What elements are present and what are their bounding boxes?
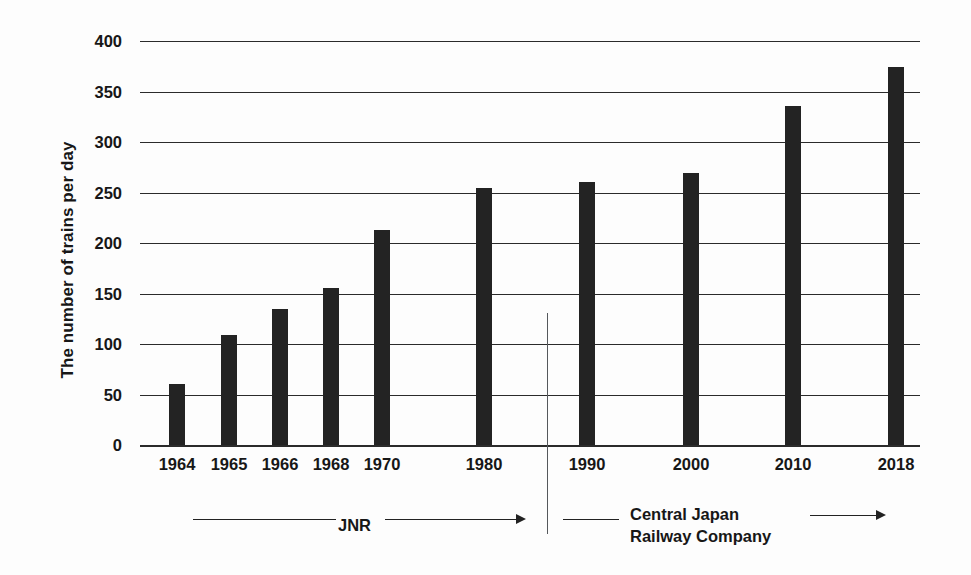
gridline [140,41,920,42]
x-tick-label: 1980 [454,455,514,474]
y-axis-tick-labels: 400350300250200150100500 [48,41,122,445]
plot-area [140,41,920,445]
gridline [140,193,920,194]
y-tick-label: 150 [48,284,122,303]
x-tick-label: 1964 [147,455,207,474]
bar [683,173,699,445]
cjr-arrow-head [876,510,886,520]
bar [221,335,237,445]
gridline [140,344,920,345]
jnr-leader-line-left [193,519,336,520]
bar [579,182,595,445]
x-tick-label: 2018 [866,455,926,474]
cjr-label: Central Japan Railway Company [630,503,771,548]
bar [169,384,185,445]
bar [272,309,288,445]
jnr-label: JNR [338,514,371,536]
bar [888,67,904,445]
y-tick-label: 400 [48,32,122,51]
y-tick-label: 100 [48,335,122,354]
cjr-leader-line-left [563,519,619,520]
cjr-arrow-line [810,515,876,516]
gridline [140,92,920,93]
x-tick-label: 2000 [661,455,721,474]
y-tick-label: 200 [48,234,122,253]
x-axis-tick-labels: 1964196519661968197019801990200020102018 [0,455,971,483]
y-tick-label: 300 [48,133,122,152]
chart-figure: The number of trains per day 40035030025… [0,0,971,575]
jnr-arrow-line [385,519,516,520]
era-annotations: JNR Central Japan Railway Company [0,495,971,565]
cjr-label-line1: Central Japan [630,503,771,525]
x-tick-label: 2010 [763,455,823,474]
bar [374,230,390,445]
bar [785,106,801,445]
jnr-arrow-head [516,514,526,524]
y-tick-label: 50 [48,385,122,404]
bar [323,288,339,445]
gridline [140,294,920,295]
y-tick-label: 250 [48,183,122,202]
gridline [140,395,920,396]
y-tick-label: 350 [48,82,122,101]
x-tick-label: 1970 [352,455,412,474]
cjr-label-line2: Railway Company [630,525,771,547]
y-tick-label: 0 [48,436,122,455]
bar [476,188,492,445]
gridline [140,445,920,447]
x-tick-label: 1990 [557,455,617,474]
gridline [140,243,920,244]
gridline [140,142,920,143]
